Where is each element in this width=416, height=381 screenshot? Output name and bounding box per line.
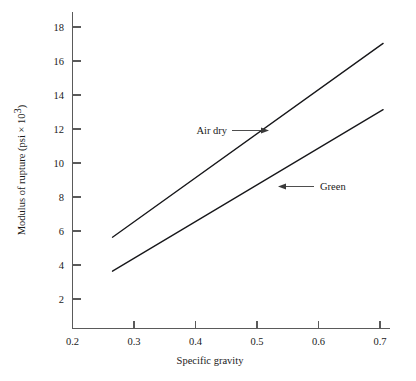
y-axis-title: Modulus of rupture (psi × 103): [12, 104, 28, 235]
y-tick-label-18: 18: [54, 22, 65, 33]
series-group: [113, 43, 384, 271]
y-tick-label-12: 12: [54, 124, 65, 135]
y-tick-label-14: 14: [54, 90, 65, 101]
y-axis-tick-labels: 18 16 14 12 10 8 6 4 2: [54, 22, 65, 305]
y-axis-title-base: Modulus of rupture (psi × 10: [16, 114, 28, 236]
x-axis-tick-labels: 0.2 0.3 0.4 0.5 0.6 0.7: [66, 336, 387, 347]
x-tick-label-0.2: 0.2: [66, 336, 79, 347]
annotation-green: Green: [278, 181, 346, 192]
svg-text:Modulus of rupture (psi × 103): Modulus of rupture (psi × 103): [12, 104, 28, 235]
y-tick-label-8: 8: [59, 192, 64, 203]
line-chart-figure: 18 16 14 12 10 8 6 4 2 0.2 0.3 0.4 0.5 0…: [0, 0, 416, 381]
x-tick-label-0.7: 0.7: [373, 336, 386, 347]
y-axis-title-close: ): [16, 104, 28, 108]
y-tick-label-10: 10: [54, 158, 65, 169]
y-tick-label-6: 6: [59, 226, 64, 237]
x-tick-label-0.4: 0.4: [189, 336, 203, 347]
y-tick-label-4: 4: [59, 260, 65, 271]
axes-group: [73, 12, 391, 329]
chart-container: 18 16 14 12 10 8 6 4 2 0.2 0.3 0.4 0.5 0…: [0, 0, 416, 381]
annotation-label-air-dry: Air dry: [196, 125, 227, 136]
y-tick-label-16: 16: [54, 56, 65, 67]
series-line-air-dry: [113, 43, 384, 237]
x-tick-label-0.3: 0.3: [127, 336, 140, 347]
y-tick-label-2: 2: [59, 294, 64, 305]
annotation-arrowhead-left-icon: [278, 183, 286, 189]
annotation-air-dry: Air dry: [196, 125, 269, 136]
annotation-label-green: Green: [320, 181, 346, 192]
x-axis-ticks: [73, 321, 381, 329]
y-axis-ticks: [73, 27, 81, 299]
x-tick-label-0.6: 0.6: [312, 336, 325, 347]
x-axis-title: Specific gravity: [177, 355, 245, 366]
x-tick-label-0.5: 0.5: [250, 336, 263, 347]
